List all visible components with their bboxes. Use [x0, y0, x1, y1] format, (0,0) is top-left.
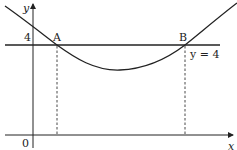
y-value-label: 4 — [24, 31, 31, 44]
point-a-label: A — [52, 31, 62, 44]
line-equation-label: y = 4 — [189, 48, 219, 61]
y-axis-label: y — [22, 2, 30, 15]
x-axis-label: x — [228, 140, 235, 150]
point-b-label: B — [179, 31, 187, 44]
diagram-canvas: y 4 A B y = 4 0 x — [0, 0, 237, 150]
origin-label: 0 — [22, 137, 29, 150]
